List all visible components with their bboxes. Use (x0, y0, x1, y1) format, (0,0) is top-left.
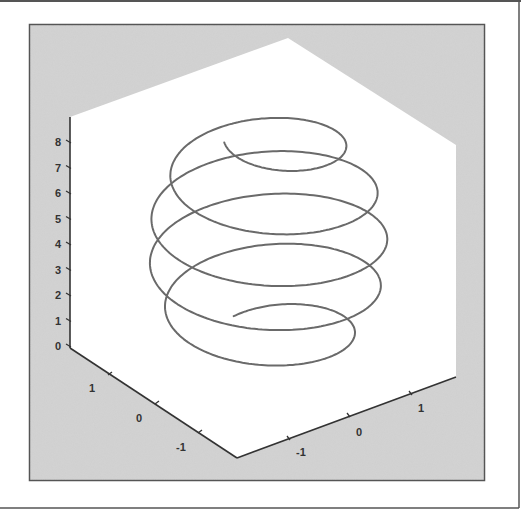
chart-figure: 01234567810-1-101 (0, 0, 521, 521)
z-tick-label: 5 (55, 213, 61, 225)
x-tick-label: -1 (176, 441, 186, 453)
z-tick-label: 6 (55, 187, 61, 199)
y-tick-label: 1 (418, 402, 424, 414)
x-tick-label: 1 (89, 382, 95, 394)
z-tick-label: 0 (55, 340, 61, 352)
z-tick-label: 4 (55, 238, 62, 250)
z-tick-label: 8 (55, 136, 61, 148)
y-tick-label: -1 (296, 446, 306, 458)
z-tick-label: 1 (55, 315, 61, 327)
z-tick-label: 7 (55, 162, 61, 174)
z-tick-label: 2 (55, 289, 61, 301)
z-tick-label: 3 (55, 264, 61, 276)
x-tick-label: 0 (136, 412, 142, 424)
y-tick-label: 0 (356, 426, 362, 438)
